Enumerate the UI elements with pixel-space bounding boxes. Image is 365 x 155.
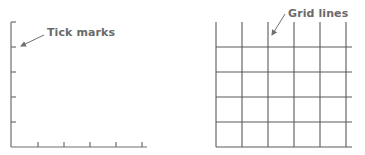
grid-lines-pointer-arrow xyxy=(272,14,285,35)
grid-lines-label: Grid lines xyxy=(288,7,348,20)
diagram-canvas xyxy=(0,0,365,155)
tick-marks-label: Tick marks xyxy=(47,26,115,39)
tick-marks-pointer-arrow xyxy=(21,35,44,46)
tick-marks-panel xyxy=(11,22,147,147)
grid-lines-panel xyxy=(216,14,352,147)
